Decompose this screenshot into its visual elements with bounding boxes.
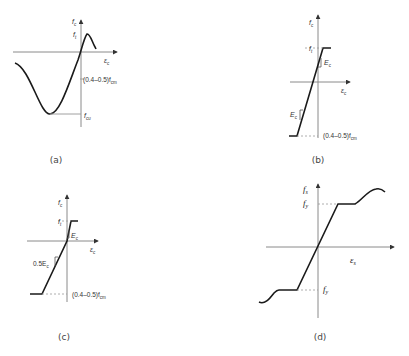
top-label: ft (58, 218, 62, 227)
panel-a: fc ft εc (0.4–0.5)fcm fcu (a) (13, 18, 117, 165)
caption-d: (d) (314, 332, 327, 342)
slope-bottom-label: Ec (290, 111, 298, 120)
x-axis-label: εs (350, 255, 357, 266)
figure-canvas: fc ft εc (0.4–0.5)fcm fcu (a) fc ft Ec ε… (0, 0, 409, 356)
x-axis-label: εc (104, 57, 110, 66)
caption-c: (c) (58, 332, 70, 342)
slope-top-label: Ec (324, 59, 332, 68)
slope-top-label: Ec (71, 232, 79, 241)
bottom-label: fy (323, 284, 329, 295)
stress-strain-curve (15, 34, 96, 114)
x-axis-label: εc (90, 246, 96, 255)
panel-d: fs fy εs fy (d) (259, 184, 394, 342)
min-label: fcu (84, 112, 91, 121)
x-axis-label: εc (341, 87, 347, 96)
caption-a: (a) (50, 155, 63, 165)
y-axis-label: fc (58, 199, 63, 208)
y-axis-label: fc (309, 19, 314, 28)
panel-b: fc ft Ec εc Ec (0.4–0.5)fcm (b) (289, 15, 357, 165)
top-label: ft (309, 45, 313, 54)
caption-b: (b) (312, 155, 325, 165)
mid-stress-label: (0.4–0.5)fcm (83, 76, 117, 85)
bottom-stress-label: (0.4–0.5)fcm (323, 132, 357, 141)
y-axis-label: fs (303, 184, 309, 195)
bottom-stress-label: (0.4–0.5)fcm (72, 291, 106, 300)
panel-c: fc ft Ec εc 0.5Ec (0.4–0.5)fcm (c) (27, 195, 106, 342)
stress-strain-curve (259, 189, 385, 303)
slope-bottom-label: 0.5Ec (33, 260, 49, 269)
peak-label: ft (73, 31, 77, 40)
y-axis-label: fc (72, 18, 77, 27)
top-label: fy (303, 198, 309, 209)
